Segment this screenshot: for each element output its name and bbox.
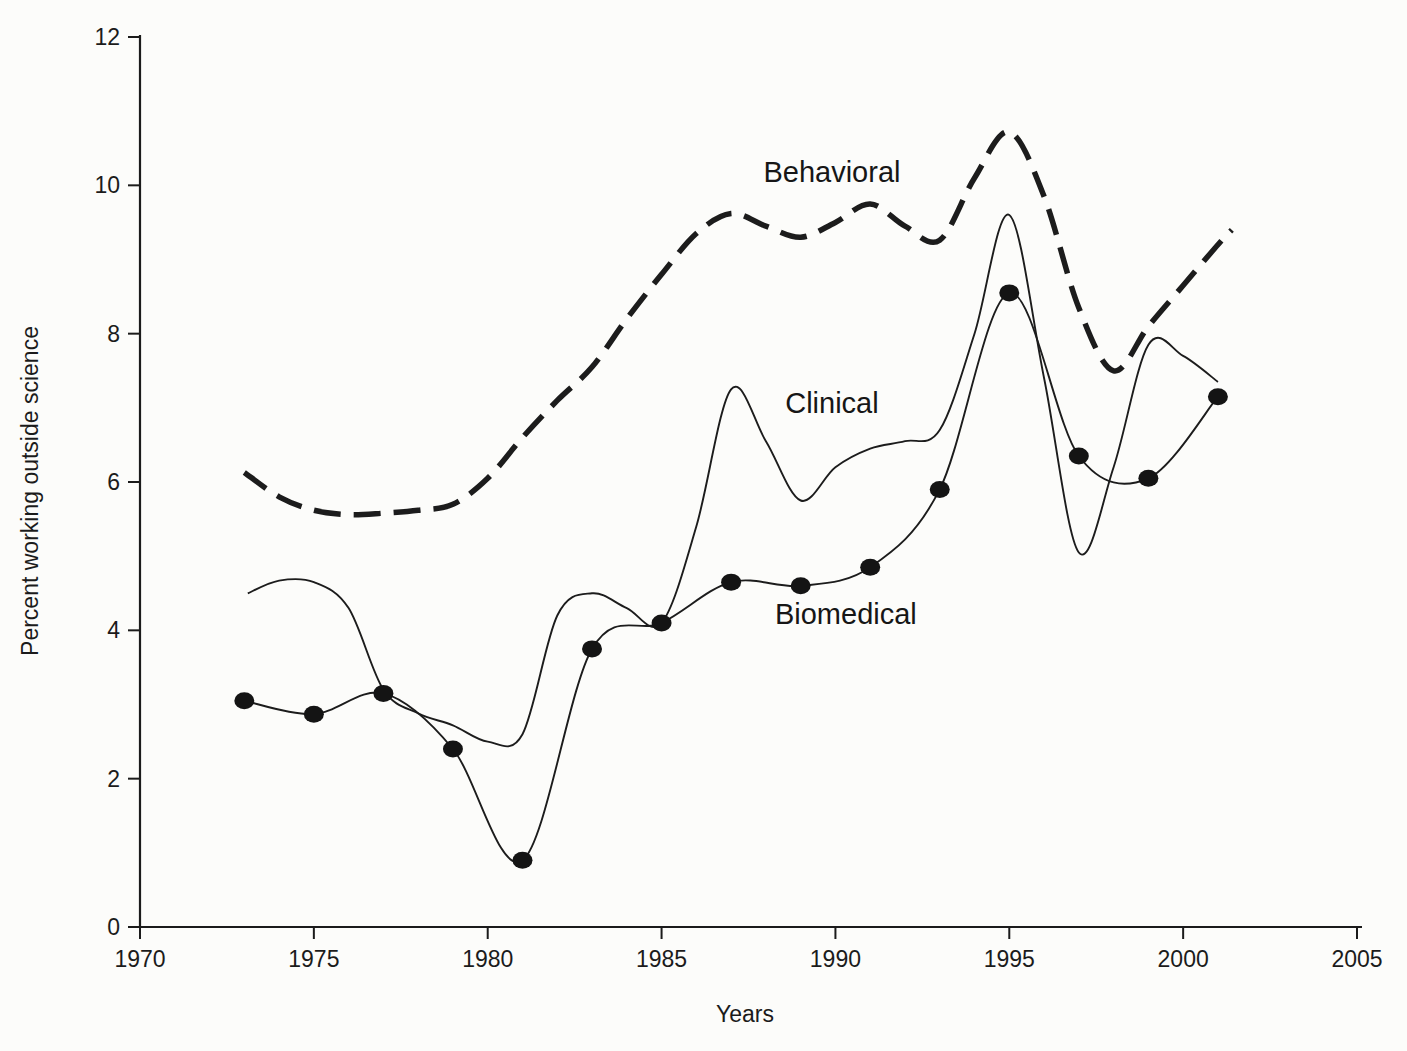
marker-biomedical-1995: [999, 284, 1019, 301]
y-tick-label-0: 0: [107, 914, 120, 940]
x-tick-label-1990: 1990: [810, 946, 861, 972]
series-label-clinical: Clinical: [785, 387, 878, 419]
marker-biomedical-1999: [1138, 470, 1158, 487]
x-tick-label-1985: 1985: [636, 946, 687, 972]
x-tick-label-1970: 1970: [114, 946, 165, 972]
marker-biomedical-1985: [652, 614, 672, 631]
marker-biomedical-1993: [930, 481, 950, 498]
y-tick-label-8: 8: [107, 321, 120, 347]
y-tick-label-10: 10: [94, 172, 120, 198]
marker-biomedical-1987: [721, 574, 741, 591]
marker-biomedical-1973: [234, 692, 254, 709]
line-chart: 0246810121970197519801985199019952000200…: [0, 0, 1407, 1051]
x-tick-label-1995: 1995: [984, 946, 1035, 972]
series-label-behavioral: Behavioral: [763, 156, 900, 188]
marker-biomedical-1997: [1069, 448, 1089, 465]
y-tick-label-12: 12: [94, 24, 120, 50]
x-tick-label-1975: 1975: [288, 946, 339, 972]
marker-biomedical-1975: [304, 706, 324, 723]
x-axis-title: Years: [716, 1001, 774, 1027]
marker-biomedical-1979: [443, 741, 463, 758]
y-axis-title: Percent working outside science: [17, 326, 43, 656]
marker-biomedical-1989: [791, 577, 811, 594]
marker-biomedical-1981: [512, 852, 532, 869]
marker-biomedical-1991: [860, 559, 880, 576]
series-label-biomedical: Biomedical: [775, 598, 917, 630]
y-tick-label-6: 6: [107, 469, 120, 495]
chart-figure: 0246810121970197519801985199019952000200…: [0, 0, 1407, 1051]
marker-biomedical-1983: [582, 640, 602, 657]
marker-biomedical-2001: [1208, 388, 1228, 405]
y-tick-label-4: 4: [107, 617, 120, 643]
x-tick-label-2000: 2000: [1158, 946, 1209, 972]
x-tick-label-1980: 1980: [462, 946, 513, 972]
marker-biomedical-1977: [373, 685, 393, 702]
y-tick-label-2: 2: [107, 766, 120, 792]
x-tick-label-2005: 2005: [1331, 946, 1382, 972]
